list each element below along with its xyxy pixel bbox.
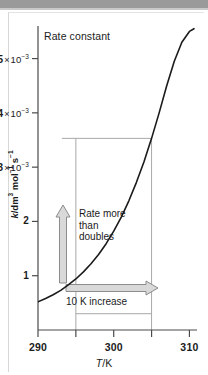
rate-constant-chart [0, 0, 208, 375]
annotation-line: than [79, 220, 126, 232]
temperature-increase-arrow-icon [66, 281, 158, 295]
x-tick-label: 300 [94, 341, 134, 353]
figure-root: Rate constant 123×10−34×10−35×10−3 29030… [0, 0, 208, 375]
annotation-ten-k-increase: 10 K increase [66, 296, 127, 308]
annotation-line: doubles [79, 231, 126, 243]
annotation-rate-doubles: Rate more than doubles [79, 208, 126, 243]
y-axis-title: k/dm3 mol−1 s−1 [7, 125, 20, 245]
y-tick-label: 1 [15, 270, 29, 282]
x-tick-label: 290 [18, 341, 58, 353]
y-axis-ticks [32, 59, 38, 276]
y-tick-label: 5×10−3 [0, 53, 29, 66]
y-tick-label: 4×10−3 [0, 107, 29, 120]
annotation-line: Rate more [79, 208, 126, 220]
x-axis-ticks [38, 330, 189, 337]
rate-increase-arrow-icon [56, 205, 70, 283]
x-axis-title: T/K [0, 357, 208, 369]
chart-title: Rate constant [44, 30, 110, 42]
x-tick-label: 310 [169, 341, 208, 353]
